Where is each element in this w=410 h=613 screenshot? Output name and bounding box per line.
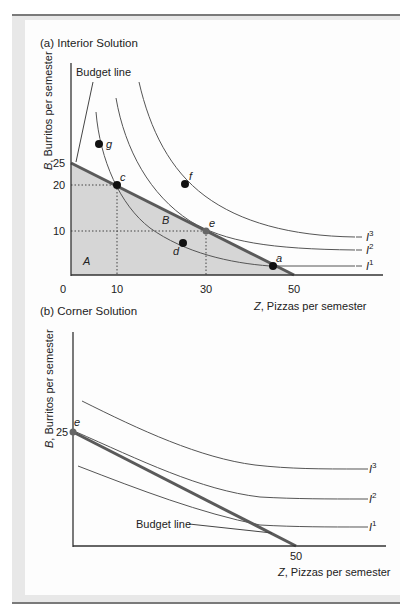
curve-labels-a: I3 I2 I1 bbox=[356, 229, 374, 272]
y-tick-25-b: 25 bbox=[56, 426, 68, 438]
curve-label-i2-b: I2 bbox=[369, 491, 377, 505]
curve-labels-b: I3 I2 I1 bbox=[362, 461, 377, 533]
x-tick-50: 50 bbox=[288, 283, 300, 295]
point-e-label-b: e bbox=[74, 416, 80, 428]
point-g bbox=[95, 140, 103, 148]
y-tick-20: 20 bbox=[53, 179, 65, 191]
y-axis-label-b: B, Burritos per semester bbox=[43, 329, 55, 448]
budget-line-pointer bbox=[76, 82, 93, 162]
indifference-curve-i2-b bbox=[74, 431, 362, 499]
x-tick-30: 30 bbox=[200, 283, 212, 295]
panel-b-title: (b) Corner Solution bbox=[40, 305, 137, 317]
point-d-label: d bbox=[173, 245, 180, 257]
point-g-label: g bbox=[106, 138, 113, 150]
point-a-label: a bbox=[276, 252, 282, 264]
point-d bbox=[179, 239, 187, 247]
region-a-label: A bbox=[82, 255, 90, 267]
y-tick-10: 10 bbox=[53, 225, 65, 237]
indifference-curve-i1-b bbox=[78, 466, 362, 527]
y-axis-label: B, Burritos per semester bbox=[42, 51, 54, 170]
point-f bbox=[181, 180, 189, 188]
panel-b: (b) Corner Solution Budget line 25 50 B,… bbox=[40, 305, 391, 578]
x-tick-10: 10 bbox=[111, 283, 123, 295]
budget-line-label-b: Budget line bbox=[136, 518, 191, 530]
curve-label-i1: I1 bbox=[366, 258, 374, 272]
x-axis-label-b: Z, Pizzas per semester bbox=[277, 566, 391, 578]
y-tick-25: 25 bbox=[53, 157, 65, 169]
point-c-label: c bbox=[120, 171, 126, 183]
x-axis-label: Z, Pizzas per semester bbox=[253, 300, 367, 312]
panel-a: (a) Interior Solution Budget line 25 20 … bbox=[40, 37, 383, 312]
region-b-label: B bbox=[162, 214, 169, 226]
curve-label-i3: I3 bbox=[366, 229, 374, 243]
point-e-b bbox=[70, 429, 77, 436]
point-f-label: f bbox=[189, 170, 193, 182]
chart-svg: (a) Interior Solution Budget line 25 20 … bbox=[0, 0, 410, 613]
panel-a-title: (a) Interior Solution bbox=[40, 37, 138, 49]
curve-label-i3-b: I3 bbox=[369, 461, 377, 475]
x-tick-0: 0 bbox=[60, 283, 66, 295]
budget-line-label: Budget line bbox=[76, 66, 131, 78]
curve-label-i2: I2 bbox=[366, 242, 374, 256]
point-e-label: e bbox=[209, 217, 215, 229]
curve-label-i1-b: I1 bbox=[369, 519, 377, 533]
x-tick-50-b: 50 bbox=[290, 550, 302, 562]
